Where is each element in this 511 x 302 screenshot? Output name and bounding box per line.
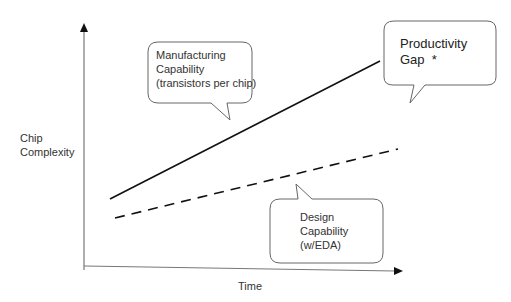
design-label-line2: Capability bbox=[300, 225, 348, 238]
manufacturing-label-line3: (transistors per chip) bbox=[156, 77, 256, 90]
y-axis-label-line1: Chip bbox=[20, 132, 43, 145]
gap-label-line1: Productivity bbox=[400, 36, 467, 51]
design-label-line3: (w/EDA) bbox=[300, 239, 341, 252]
y-axis-label-line2: Complexity bbox=[20, 146, 74, 159]
x-axis-label: Time bbox=[238, 280, 262, 293]
manufacturing-label-line2: Capability bbox=[156, 63, 204, 76]
x-axis-arrow-icon bbox=[394, 267, 403, 275]
manufacturing-label-line1: Manufacturing bbox=[156, 49, 226, 62]
x-axis bbox=[84, 266, 395, 271]
design-label-line1: Design bbox=[300, 211, 334, 224]
y-axis-arrow-icon bbox=[80, 23, 88, 32]
gap-label-line2: Gap * bbox=[400, 52, 437, 67]
